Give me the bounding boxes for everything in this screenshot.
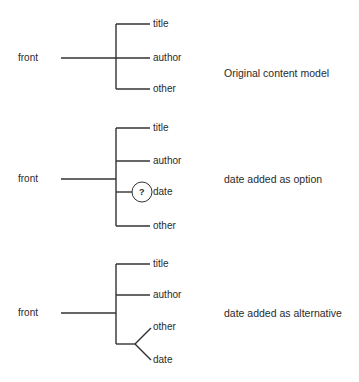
child-label-date: date	[153, 186, 172, 198]
child-label-title: title	[153, 258, 169, 270]
child-label-title: title	[153, 122, 169, 134]
child-label-other: other	[153, 83, 176, 95]
optional-marker: ?	[139, 186, 145, 198]
child-label-author: author	[153, 155, 181, 167]
child-label-other: other	[153, 220, 176, 232]
child-label-author: author	[153, 52, 181, 64]
child-label-author: author	[153, 289, 181, 301]
child-label-other: other	[153, 321, 176, 333]
child-label-title: title	[153, 18, 169, 30]
root-label-front: front	[18, 307, 38, 319]
child-label-date: date	[153, 354, 172, 366]
root-label-front: front	[18, 52, 38, 64]
caption-alternative: date added as alternative	[224, 307, 342, 319]
root-label-front: front	[18, 173, 38, 185]
caption-original: Original content model	[224, 67, 329, 79]
caption-option: date added as option	[224, 173, 322, 185]
